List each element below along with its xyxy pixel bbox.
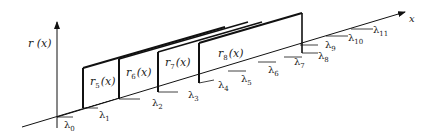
- knot-label-9: λ9: [325, 39, 336, 53]
- plane-label-r8: r8(x): [218, 47, 244, 62]
- plane-label-r7: r7(x): [165, 56, 191, 71]
- knot-label-0: λ0: [64, 119, 75, 133]
- diagram-canvas: r (x) x r5(x) r6(x) r7(x) r8(x) λ0 λ1 λ2…: [0, 0, 433, 136]
- knot-label-10: λ10: [348, 32, 363, 46]
- knot-label-4: λ4: [218, 79, 229, 93]
- knot-label-7: λ7: [294, 56, 305, 70]
- knot-label-5: λ5: [241, 73, 252, 87]
- plane-label-r5: r5(x): [90, 75, 116, 90]
- knot-label-11: λ11: [373, 24, 388, 38]
- knot-label-8: λ8: [318, 50, 329, 64]
- y-axis-label: r (x): [28, 37, 52, 50]
- x-axis-label: x: [409, 13, 415, 24]
- knot-label-3: λ3: [188, 89, 199, 103]
- knot-label-2: λ2: [152, 97, 163, 111]
- diagram-svg: r (x) x r5(x) r6(x) r7(x) r8(x) λ0 λ1 λ2…: [0, 0, 433, 136]
- knot-label-6: λ6: [268, 64, 279, 78]
- plane-label-r6: r6(x): [126, 66, 152, 81]
- knot-label-1: λ1: [99, 109, 110, 123]
